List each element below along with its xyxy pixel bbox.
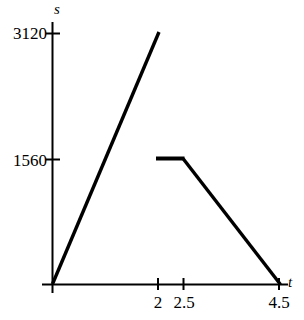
y-axis-label: s (54, 2, 60, 17)
x-tick-label-2-5: 2.5 (168, 294, 200, 311)
graph-figure: s t 3120 1560 2 2.5 4.5 (0, 0, 304, 320)
series-falling-segment (183, 159, 281, 285)
y-tick-label-3120: 3120 (1, 25, 47, 42)
x-axis-label: t (288, 275, 292, 290)
x-tick-label-2: 2 (148, 294, 168, 311)
y-tick-label-1560: 1560 (1, 152, 47, 169)
series-rising-segment (53, 32, 160, 284)
x-tick-label-4-5: 4.5 (263, 294, 295, 311)
